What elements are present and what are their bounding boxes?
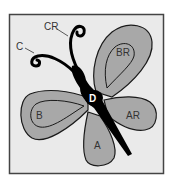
label-c: C (16, 41, 23, 52)
butterfly-diagram: CR C BR B AR A D (0, 0, 174, 185)
label-b: B (36, 110, 43, 121)
label-br: BR (116, 47, 130, 58)
label-a: A (94, 140, 101, 151)
butterfly-figure: CR C BR B AR A D (0, 0, 174, 185)
label-cr: CR (44, 21, 58, 32)
label-ar: AR (126, 110, 140, 121)
label-d: D (89, 93, 96, 104)
